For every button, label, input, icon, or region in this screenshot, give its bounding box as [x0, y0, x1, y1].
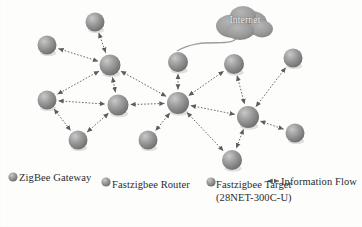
cloud-link: [177, 36, 238, 51]
edge-n12-n13: [256, 68, 286, 107]
edge-n5-n7: [131, 103, 165, 104]
node-router[interactable]: [38, 36, 57, 57]
node-sphere: [38, 91, 57, 110]
node-sphere: [237, 106, 259, 128]
cloud-label: Internet: [215, 15, 275, 25]
edge-n1-n3: [99, 33, 106, 52]
node-sphere: [222, 150, 242, 170]
node-sphere: [86, 13, 105, 32]
edge-n3-n7: [121, 71, 166, 96]
edge-layer: [54, 33, 285, 151]
node-sphere: [224, 54, 244, 74]
node-router[interactable]: [108, 95, 129, 118]
edge-n7-n12: [191, 106, 235, 115]
node-sphere: [38, 36, 57, 55]
node-target[interactable]: [284, 49, 303, 70]
edge-n7-n10: [187, 113, 223, 151]
node-gateway[interactable]: [168, 52, 188, 74]
node-target[interactable]: [222, 150, 242, 172]
node-sphere: [139, 131, 158, 150]
node-sphere: [8, 172, 17, 181]
network-diagram: Internet ZigBee Gateway Fastzigbee Route…: [0, 0, 362, 227]
legend-label-gateway: ZigBee Gateway: [19, 172, 91, 183]
node-router[interactable]: [237, 106, 259, 130]
legend-marker-target: [206, 177, 215, 186]
node-target[interactable]: [69, 131, 88, 152]
diagram-canvas: [0, 0, 362, 227]
edge-n5-n6: [87, 114, 108, 133]
node-sphere: [101, 177, 110, 186]
node-router[interactable]: [167, 92, 189, 116]
node-router[interactable]: [224, 54, 244, 76]
legend-label-flow: Information Flow: [281, 176, 357, 187]
node-sphere: [206, 177, 215, 186]
legend-label-router: Fastzigbee Router: [112, 179, 190, 190]
edge-n3-n5: [113, 78, 116, 93]
node-target[interactable]: [139, 131, 158, 152]
legend-label-target-model: (28NET-300C-U): [216, 192, 292, 203]
legend-marker-gateway: [8, 172, 17, 181]
edge-n12-n14: [261, 121, 284, 129]
edge-n7-n11: [189, 71, 224, 95]
edge-n12-n10: [236, 130, 243, 149]
node-sphere: [167, 92, 189, 114]
node-sphere: [168, 52, 188, 72]
node-sphere: [100, 55, 121, 76]
node-sphere: [108, 95, 129, 116]
legend-marker-router: [101, 177, 110, 186]
node-target[interactable]: [286, 124, 305, 145]
edge-n11-n12: [237, 76, 244, 104]
node-sphere: [69, 131, 88, 150]
cloud-to-gateway-link: [177, 36, 238, 51]
edge-n4-n6: [54, 109, 70, 130]
node-router[interactable]: [86, 13, 105, 34]
edge-n4-n5: [59, 101, 105, 104]
node-sphere: [286, 124, 305, 143]
edge-n3-n4: [57, 71, 98, 94]
edge-n3-n2: [58, 49, 97, 61]
node-router[interactable]: [38, 91, 57, 112]
edge-n7-n9: [156, 113, 170, 130]
node-sphere: [284, 49, 303, 68]
node-router[interactable]: [100, 55, 121, 78]
